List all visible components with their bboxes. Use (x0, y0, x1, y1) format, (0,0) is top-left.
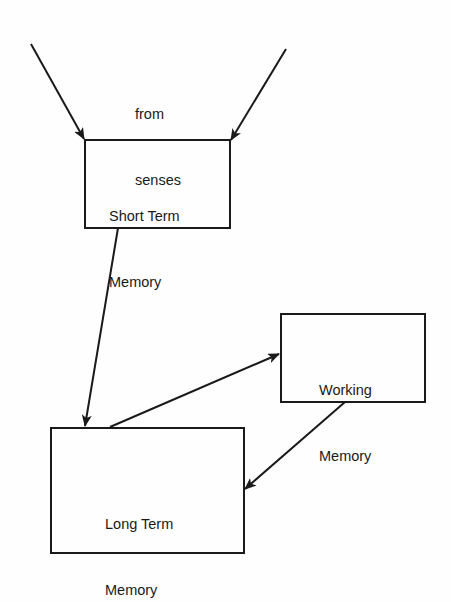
long-term-memory-line2: Memory (105, 579, 173, 601)
short-term-memory-label: Short Term Memory (109, 161, 180, 315)
long-term-memory-label: Long Term Memory (105, 469, 173, 602)
short-term-memory-line2: Memory (109, 271, 180, 293)
arrow-ltm-to-wm (110, 354, 279, 427)
arrow-senses-left-to-stm (31, 44, 84, 139)
arrow-senses-right-to-stm (231, 49, 286, 140)
working-memory-line2: Memory (319, 445, 372, 467)
working-memory-line1: Working (319, 379, 372, 401)
working-memory-label: Working Memory (319, 335, 372, 489)
from-senses-line1: from (135, 103, 181, 125)
short-term-memory-line1: Short Term (109, 205, 180, 227)
long-term-memory-line1: Long Term (105, 513, 173, 535)
